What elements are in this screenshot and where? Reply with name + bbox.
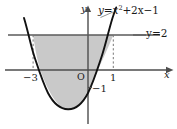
y-tick-label-neg1: −1 [92,84,107,94]
x-tick-label-one: 1 [110,73,116,83]
shaded-region [33,35,113,109]
x-tick-label-neg3: −3 [23,73,38,83]
y-axis-label: y [81,4,87,14]
coordinate-plane-svg [0,0,177,129]
horizontal-line-label: y=2 [146,28,167,39]
curve-equation-label: y=x2+2x−1 [98,5,159,16]
origin-label: O [77,72,85,82]
math-figure: y=x2+2x−1 y=2 y x O −3 1 −1 [0,0,177,129]
curve-equation-equals: = [104,4,113,16]
x-axis-label: x [164,70,170,80]
curve-equation-tail: +2x−1 [122,4,158,16]
